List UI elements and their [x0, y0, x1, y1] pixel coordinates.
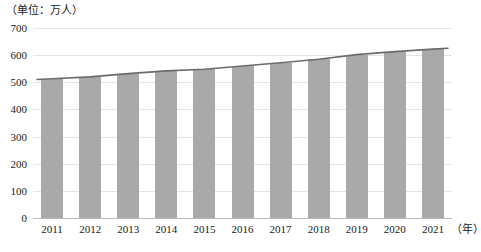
x-axis-tick-label: 2012	[79, 222, 101, 236]
x-axis-unit-label: （年）	[451, 222, 481, 236]
y-axis-tick-label: 300	[11, 131, 28, 142]
x-axis-tick-label: 2018	[308, 222, 330, 236]
bar	[41, 79, 63, 218]
bar	[193, 69, 215, 218]
x-axis-tick-label: 2017	[270, 222, 292, 236]
y-axis-tick-label: 600	[11, 50, 28, 61]
x-axis-tick-labels: 2011201220132014201520162017201820192020…	[33, 222, 452, 240]
x-axis-tick-label: 2014	[155, 222, 177, 236]
bar	[308, 59, 330, 218]
y-axis-tick-label: 700	[11, 23, 28, 34]
plot-area: 0100200300400500600700	[33, 28, 452, 218]
x-axis-tick-label: 2019	[346, 222, 368, 236]
axis-baseline	[33, 218, 452, 219]
x-axis-tick-label: 2011	[41, 222, 63, 236]
y-axis-tick-label: 500	[11, 77, 28, 88]
y-axis-tick-label: 400	[11, 104, 28, 115]
bar-series	[33, 28, 452, 218]
y-axis-tick-label: 100	[11, 185, 28, 196]
bar	[79, 77, 101, 218]
bar	[270, 63, 292, 218]
x-axis-tick-label: 2020	[384, 222, 406, 236]
bar	[155, 71, 177, 218]
x-axis-tick-label: 2016	[232, 222, 254, 236]
chart-unit-caption: （单位：万人）	[6, 4, 83, 17]
x-axis-tick-label: 2021	[422, 222, 444, 236]
bar	[422, 49, 444, 218]
bar	[346, 55, 368, 218]
bar	[384, 52, 406, 218]
y-axis-tick-label: 200	[11, 158, 28, 169]
y-axis-tick-label: 0	[22, 213, 28, 224]
x-axis-tick-label: 2013	[117, 222, 139, 236]
bar	[232, 66, 254, 218]
bar	[117, 74, 139, 218]
x-axis-tick-label: 2015	[193, 222, 215, 236]
